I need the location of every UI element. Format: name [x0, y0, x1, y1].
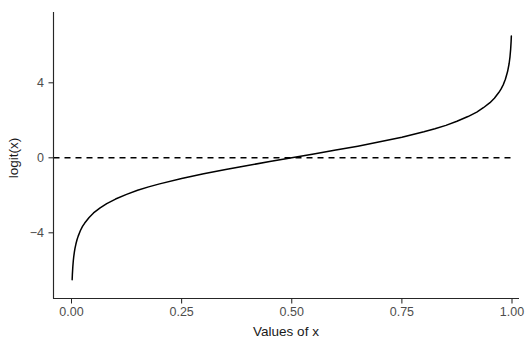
chart-svg: 0.000.250.500.751.00 −404 Values of x lo…	[0, 0, 529, 348]
logit-function-chart: 0.000.250.500.751.00 −404 Values of x lo…	[0, 0, 529, 348]
x-tick-label: 0.75	[390, 305, 414, 319]
y-tick-label: 4	[37, 76, 44, 90]
x-axis-title: Values of x	[253, 324, 319, 339]
y-axis-title: logit(x)	[6, 138, 21, 179]
chart-background	[0, 0, 529, 348]
x-tick-label: 0.50	[280, 305, 304, 319]
y-tick-label: 0	[37, 151, 44, 165]
x-tick-label: 0.00	[59, 305, 83, 319]
x-tick-label: 1.00	[500, 305, 524, 319]
x-tick-label: 0.25	[169, 305, 193, 319]
y-tick-label: −4	[30, 226, 44, 240]
